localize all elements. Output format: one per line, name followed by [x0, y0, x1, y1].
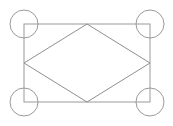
- geometric-figure-canvas: [0, 0, 173, 126]
- canvas-background: [0, 0, 173, 126]
